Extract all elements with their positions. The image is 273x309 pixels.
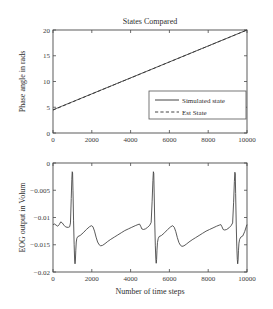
y-axis-label: Phase angle in rads <box>18 51 27 113</box>
y-axis-label: EOG output in Volum <box>18 182 27 253</box>
legend-label: Est State <box>182 109 207 117</box>
series-line <box>53 172 247 264</box>
plot-frame <box>53 163 247 272</box>
y-tick-label: 0 <box>47 130 51 138</box>
x-tick-label: 10000 <box>238 275 256 283</box>
chart-figure: 020004000600080001000005101520States Com… <box>0 0 273 309</box>
x-tick-label: 4000 <box>124 136 139 144</box>
x-tick-label: 0 <box>51 275 55 283</box>
x-tick-label: 6000 <box>162 275 177 283</box>
x-tick-label: 2000 <box>85 136 100 144</box>
legend-label: Simulated state <box>182 97 225 105</box>
x-tick-label: 10000 <box>238 136 256 144</box>
subplot-states-compared: 020004000600080001000005101520States Com… <box>18 17 256 144</box>
x-tick-label: 8000 <box>201 136 216 144</box>
y-tick-label: 10 <box>43 78 51 86</box>
y-tick-label: −0.005 <box>30 187 50 195</box>
y-tick-label: −0.015 <box>30 241 50 249</box>
chart-title: States Compared <box>123 17 177 26</box>
figure-container: 020004000600080001000005101520States Com… <box>0 0 273 309</box>
y-tick-label: −0.02 <box>34 269 51 277</box>
chart-legend: Simulated stateEst State <box>149 91 246 119</box>
y-tick-label: 0 <box>47 160 51 168</box>
x-tick-label: 6000 <box>162 136 177 144</box>
y-tick-label: 20 <box>43 27 51 35</box>
x-axis-label: Number of time steps <box>115 287 184 296</box>
x-tick-label: 2000 <box>85 275 100 283</box>
y-tick-label: 15 <box>43 52 51 60</box>
x-tick-label: 0 <box>51 136 55 144</box>
y-tick-label: 5 <box>47 104 51 112</box>
subplot-eog-output: 0200040006000800010000−0.02−0.015−0.01−0… <box>18 160 256 297</box>
y-tick-label: −0.01 <box>34 214 51 222</box>
x-tick-label: 4000 <box>124 275 139 283</box>
x-tick-label: 8000 <box>201 275 216 283</box>
